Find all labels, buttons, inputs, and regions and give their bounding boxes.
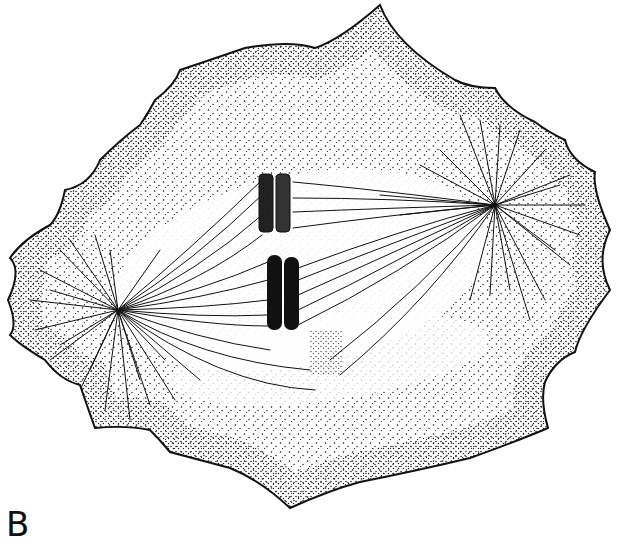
stippled-band [310, 330, 342, 375]
mitosis-cell-illustration [0, 0, 629, 547]
panel-label: B [6, 507, 29, 541]
